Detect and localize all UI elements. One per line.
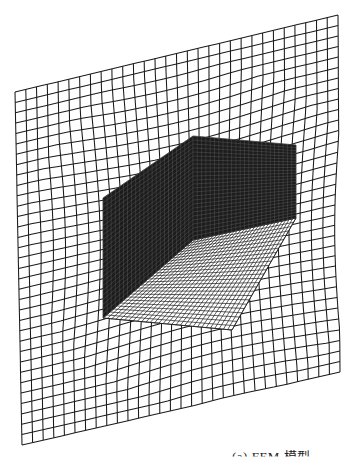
figure-caption: (a) FEM 模型: [232, 446, 311, 461]
